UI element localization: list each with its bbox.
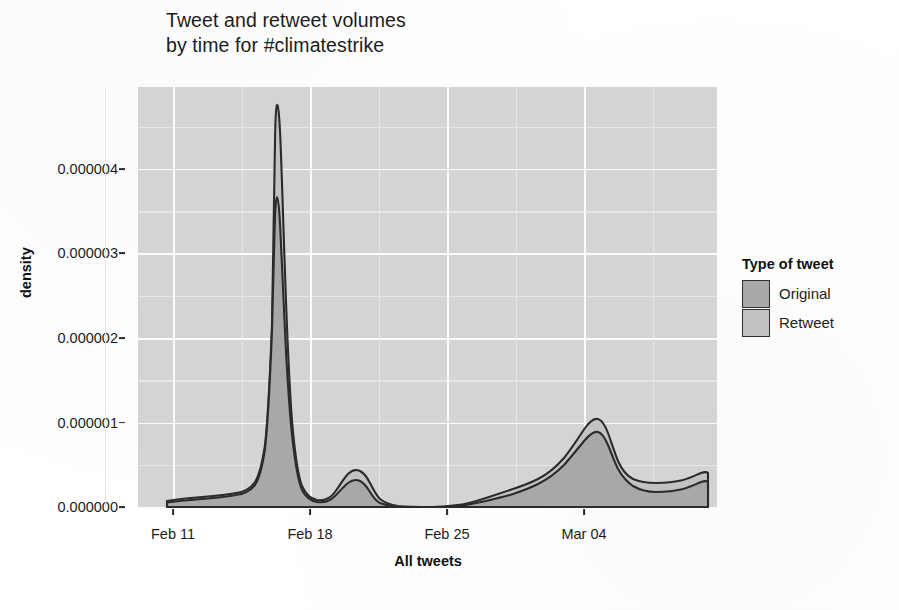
- x-tick-label: Feb 18: [287, 526, 332, 542]
- y-tick-mark: [119, 337, 125, 339]
- x-axis-title: All tweets: [394, 553, 462, 569]
- y-tick-mark: [119, 506, 125, 508]
- x-tick-label: Mar 04: [561, 526, 606, 542]
- x-tick-label: Feb 25: [424, 526, 469, 542]
- legend-item-retweet[interactable]: Retweet: [742, 308, 892, 337]
- legend: Type of tweet Original Retweet: [742, 256, 892, 337]
- legend-swatch-retweet: [742, 309, 770, 337]
- retweet-density-area: [167, 105, 708, 507]
- legend-title: Type of tweet: [742, 256, 892, 272]
- y-tick-label: 0.000001: [58, 415, 118, 431]
- plot-panel: [138, 87, 717, 508]
- gridline-minor-v: [105, 87, 107, 508]
- y-tick-mark: [119, 422, 125, 424]
- y-tick-label: 0.000000: [58, 499, 118, 515]
- y-axis-title: density: [18, 247, 34, 298]
- y-tick-mark: [119, 252, 125, 254]
- density-curves: [138, 87, 717, 508]
- original-density-area: [167, 197, 708, 507]
- y-tick-mark: [119, 168, 125, 170]
- chart-title: Tweet and retweet volumes by time for #c…: [166, 8, 406, 58]
- x-tick-label: Feb 11: [151, 526, 195, 542]
- y-tick-label: 0.000002: [58, 330, 118, 346]
- x-tick-mark: [583, 509, 585, 515]
- x-tick-mark: [446, 509, 448, 515]
- y-tick-label: 0.000003: [58, 245, 118, 261]
- x-tick-mark: [309, 509, 311, 515]
- x-tick-mark: [172, 509, 174, 515]
- y-axis: 0.000004 0.000003 0.000002 0.000001 0.00…: [0, 0, 138, 610]
- legend-swatch-original: [742, 280, 770, 308]
- legend-label-retweet: Retweet: [779, 314, 834, 331]
- y-tick-label: 0.000004: [58, 161, 118, 177]
- legend-label-original: Original: [779, 285, 831, 302]
- legend-item-original[interactable]: Original: [742, 279, 892, 308]
